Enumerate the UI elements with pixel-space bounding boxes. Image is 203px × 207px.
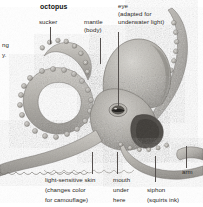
label-mouth-line-3: here <box>113 196 125 203</box>
clipped-text-line-2: y. <box>2 51 6 58</box>
leader-line-siphon <box>155 156 156 182</box>
clipped-text-line-1: ng <box>2 41 9 48</box>
label-skin-line-1: light-sensitive skin <box>45 176 95 183</box>
leader-line-skin <box>92 152 93 174</box>
leader-line-mantle <box>100 38 101 64</box>
label-eye-line-2: (adapted for <box>118 10 151 17</box>
label-siphon-line-1: siphon <box>147 186 165 193</box>
leader-line-mouth <box>117 152 118 174</box>
leader-line-sucker <box>50 27 51 44</box>
label-sucker: sucker <box>39 18 57 25</box>
label-skin-line-3: for camouflage) <box>45 196 88 203</box>
label-siphon-line-2: (squirts ink) <box>147 196 179 203</box>
figure-octopus-diagram: ng y. octopus sucker mantle (body) eye (… <box>0 0 203 207</box>
label-skin-line-2: (changes color <box>45 186 86 193</box>
label-eye-line-3: underwater light) <box>118 18 164 25</box>
label-mouth-line-2: under <box>113 186 129 193</box>
leader-line-arm <box>186 146 187 168</box>
label-mantle-line-1: mantle <box>84 18 103 25</box>
label-arm: arm <box>182 168 193 175</box>
leader-line-eye <box>118 32 119 106</box>
label-mouth-line-1: mouth <box>113 176 130 183</box>
label-mantle-line-2: (body) <box>84 26 102 33</box>
figure-title: octopus <box>40 3 68 10</box>
label-eye-line-1: eye <box>118 2 128 9</box>
